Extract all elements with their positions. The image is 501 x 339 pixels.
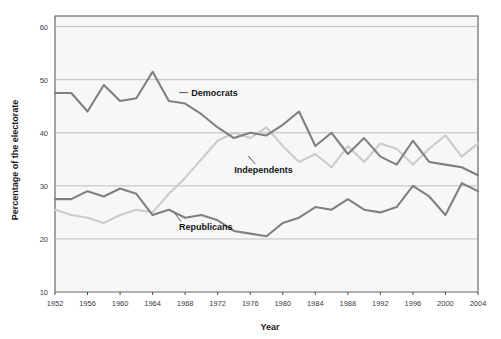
x-tick-label-1964: 1964 xyxy=(144,299,161,308)
series-label-democrats: Democrats xyxy=(191,88,238,98)
y-tick-label-40: 40 xyxy=(40,129,48,138)
x-tick-label-1976: 1976 xyxy=(242,299,259,308)
x-tick-label-1988: 1988 xyxy=(340,299,357,308)
x-tick-label-1968: 1968 xyxy=(177,299,194,308)
x-tick-label-1984: 1984 xyxy=(307,299,324,308)
y-tick-label-20: 20 xyxy=(40,235,48,244)
y-tick-label-30: 30 xyxy=(40,182,48,191)
y-tick-label-60: 60 xyxy=(40,23,48,32)
plot-background xyxy=(55,16,478,292)
x-tick-label-1980: 1980 xyxy=(274,299,291,308)
y-tick-label-10: 10 xyxy=(40,288,48,297)
x-axis-title: Year xyxy=(260,322,280,332)
plot-area xyxy=(55,16,478,292)
series-label-republicans: Republicans xyxy=(179,222,233,232)
y-axis-title: Percentage of the electorate xyxy=(10,100,20,221)
y-axis-ticks: 102030405060 xyxy=(40,23,48,297)
line-chart: 102030405060 195219561960196419681972197… xyxy=(0,0,501,339)
x-tick-label-2004: 2004 xyxy=(470,299,487,308)
x-tick-label-1956: 1956 xyxy=(79,299,96,308)
series-label-independents: Independents xyxy=(234,165,293,175)
x-tick-label-1952: 1952 xyxy=(47,299,64,308)
x-tick-label-1972: 1972 xyxy=(209,299,226,308)
x-tick-label-1992: 1992 xyxy=(372,299,389,308)
y-tick-label-50: 50 xyxy=(40,76,48,85)
chart-container: 102030405060 195219561960196419681972197… xyxy=(0,0,501,339)
x-tick-label-2000: 2000 xyxy=(437,299,454,308)
x-axis-ticks: 1952195619601964196819721976198019841988… xyxy=(47,292,487,308)
x-tick-label-1960: 1960 xyxy=(112,299,129,308)
x-tick-label-1996: 1996 xyxy=(405,299,422,308)
